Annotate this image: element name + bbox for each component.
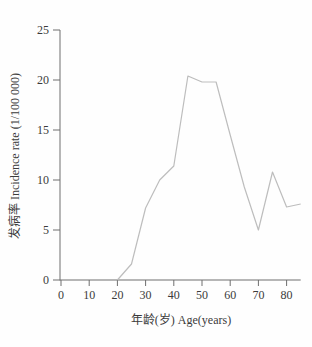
x-tick-label: 30 [140,288,152,302]
y-tick-label: 10 [37,173,49,187]
incidence-rate-figure: 051015202501020304050607080 发病率 Incidenc… [0,0,312,347]
x-tick-label: 70 [252,288,264,302]
x-tick-label: 80 [281,288,293,302]
x-tick-label: 50 [196,288,208,302]
x-tick-label: 20 [111,288,123,302]
y-tick-label: 5 [43,223,49,237]
x-tick-label: 40 [168,288,180,302]
chart-canvas: 051015202501020304050607080 [0,0,312,347]
x-axis-label: 年龄(岁) Age(years) [61,310,301,328]
y-tick-label: 25 [37,23,49,37]
y-tick-label: 15 [37,123,49,137]
x-tick-label: 0 [58,288,64,302]
x-tick-label: 60 [224,288,236,302]
incidence-rate-line [117,76,300,280]
y-tick-label: 20 [37,73,49,87]
x-tick-label: 10 [83,288,95,302]
y-tick-label: 0 [43,273,49,287]
y-axis-label: 发病率 Incidence rate (1/100 000) [5,26,23,286]
